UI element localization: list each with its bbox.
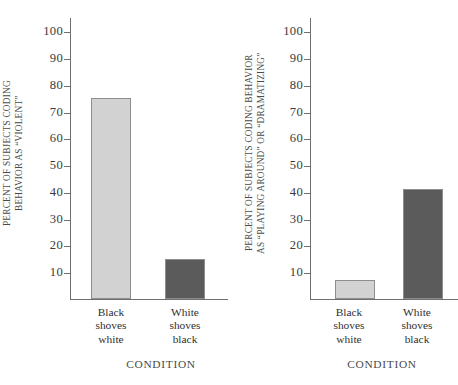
chart-panel-left: PERCENT OF SUBJECTS CODING BEHAVIOR AS “… <box>0 0 240 385</box>
y-tick-label: 60 <box>290 132 303 147</box>
y-tick-label: 20 <box>50 239 63 254</box>
y-tick-mark <box>64 86 70 87</box>
y-tick-label: 70 <box>50 105 63 120</box>
x-tick-label-right-0: Black shoves white <box>316 306 382 346</box>
y-tick-label: 50 <box>290 158 303 173</box>
y-tick-label: 100 <box>283 25 303 40</box>
y-tick-mark <box>64 193 70 194</box>
y-tick-label: 20 <box>290 239 303 254</box>
y-tick-label: 100 <box>43 25 63 40</box>
y-tick-mark <box>304 273 310 274</box>
x-axis-title-right: CONDITION <box>308 358 456 370</box>
y-tick-mark <box>64 246 70 247</box>
y-tick-label: 10 <box>290 265 303 280</box>
y-tick-mark <box>304 59 310 60</box>
x-tick-label-left-0: Black shoves white <box>76 306 146 346</box>
plot-area-left: 102030405060708090100 <box>70 18 220 300</box>
y-tick-mark <box>304 220 310 221</box>
y-axis-title-right: PERCENT OF SUBJECTS CODING BEHAVIOR AS “… <box>244 8 270 298</box>
x-axis-title-left: CONDITION <box>86 358 236 370</box>
y-tick-mark <box>304 113 310 114</box>
y-tick-label: 90 <box>290 51 303 66</box>
plot-area-right: 102030405060708090100 <box>310 18 450 300</box>
x-tick-label-left-1: White shoves black <box>150 306 220 346</box>
y-tick-label: 30 <box>50 212 63 227</box>
y-tick-label: 80 <box>50 78 63 93</box>
x-axis-line-right <box>310 299 458 300</box>
y-axis-line-left <box>70 18 71 300</box>
y-tick-label: 70 <box>290 105 303 120</box>
y-tick-mark <box>304 139 310 140</box>
bar-0 <box>335 280 375 299</box>
y-tick-mark <box>64 32 70 33</box>
y-tick-mark <box>64 139 70 140</box>
y-tick-mark <box>304 32 310 33</box>
y-tick-mark <box>304 193 310 194</box>
y-tick-label: 30 <box>290 212 303 227</box>
y-tick-label: 10 <box>50 265 63 280</box>
y-tick-label: 60 <box>50 132 63 147</box>
y-tick-mark <box>304 86 310 87</box>
y-tick-label: 40 <box>50 185 63 200</box>
bar-0 <box>91 98 131 299</box>
y-tick-mark <box>64 113 70 114</box>
bar-1 <box>403 189 443 299</box>
y-tick-mark <box>304 166 310 167</box>
bar-1 <box>165 259 205 299</box>
chart-panel-right: PERCENT OF SUBJECTS CODING BEHAVIOR AS “… <box>240 0 456 385</box>
y-tick-mark <box>64 166 70 167</box>
y-tick-label: 50 <box>50 158 63 173</box>
y-tick-mark <box>304 246 310 247</box>
x-axis-line-left <box>70 299 228 300</box>
y-tick-mark <box>64 273 70 274</box>
y-tick-label: 80 <box>290 78 303 93</box>
y-axis-line-right <box>310 18 311 300</box>
x-tick-label-right-1: White shoves black <box>384 306 450 346</box>
y-tick-mark <box>64 220 70 221</box>
y-tick-mark <box>64 59 70 60</box>
y-tick-label: 90 <box>50 51 63 66</box>
y-tick-label: 40 <box>290 185 303 200</box>
y-axis-title-left: PERCENT OF SUBJECTS CODING BEHAVIOR AS “… <box>2 8 28 298</box>
